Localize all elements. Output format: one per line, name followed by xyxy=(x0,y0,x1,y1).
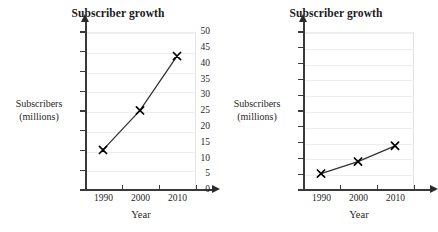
y-tick-mark xyxy=(298,47,304,48)
chart-title-right: Subscriber growth xyxy=(246,7,426,19)
gridline xyxy=(304,96,414,97)
x-tick-label: 2010 xyxy=(158,193,198,203)
x-tick-label: 1990 xyxy=(302,193,342,203)
x-axis-label-right: Year xyxy=(304,209,414,220)
y-axis-label-line1: Subscribers xyxy=(218,97,296,110)
y-tick-mark xyxy=(80,91,86,92)
chart-panel-right: Subscriber growth 0 5 10 xyxy=(218,0,436,232)
y-tick-mark xyxy=(80,71,86,72)
gridline xyxy=(304,80,414,81)
x-tick-mark xyxy=(340,185,341,191)
y-tick-mark xyxy=(80,170,86,171)
gridline xyxy=(304,144,414,145)
y-tick-mark xyxy=(80,150,86,151)
y-tick-label: 35 xyxy=(170,74,210,84)
x-tick-label: 2000 xyxy=(121,193,161,203)
y-tick-label: 20 xyxy=(170,121,210,131)
y-tick-mark xyxy=(298,174,304,175)
y-tick-mark xyxy=(298,142,304,143)
y-axis-arrow-icon xyxy=(81,14,89,22)
y-axis-line xyxy=(85,20,87,191)
y-axis-label-line2: (millions) xyxy=(0,110,78,123)
y-tick-label: 5 xyxy=(170,168,210,178)
gridline xyxy=(304,49,414,50)
gridline xyxy=(304,159,414,160)
y-tick-mark xyxy=(298,126,304,127)
x-tick-mark xyxy=(377,185,378,191)
x-tick-mark xyxy=(159,185,160,191)
plot-area-right xyxy=(304,32,414,190)
y-tick-label: 15 xyxy=(170,137,210,147)
x-axis-arrow-icon xyxy=(430,185,438,193)
gridline xyxy=(304,112,414,113)
y-tick-label: 40 xyxy=(170,58,210,68)
y-tick-mark xyxy=(80,31,86,32)
gridline xyxy=(86,132,196,133)
gridline xyxy=(304,33,414,34)
y-tick-label: 50 xyxy=(170,26,210,36)
y-tick-mark xyxy=(298,110,304,111)
gridline xyxy=(86,53,196,54)
chart-title-left: Subscriber growth xyxy=(28,7,208,19)
y-axis-arrow-icon xyxy=(299,14,307,22)
y-tick-label: 0 xyxy=(170,184,210,194)
x-axis-label-left: Year xyxy=(86,209,196,220)
y-tick-mark xyxy=(80,51,86,52)
y-tick-mark xyxy=(298,158,304,159)
y-tick-mark xyxy=(298,31,304,32)
y-tick-mark xyxy=(80,130,86,131)
y-tick-mark xyxy=(298,79,304,80)
y-axis-line xyxy=(303,20,305,191)
x-tick-mark xyxy=(122,185,123,191)
y-tick-label: 45 xyxy=(170,42,210,52)
y-axis-label-line1: Subscribers xyxy=(0,97,78,110)
y-tick-label: 30 xyxy=(170,89,210,99)
y-tick-mark xyxy=(298,95,304,96)
x-tick-mark xyxy=(303,185,304,191)
x-tick-label: 1990 xyxy=(84,193,124,203)
y-axis-label-right: Subscribers (millions) xyxy=(218,97,296,123)
y-axis-label-line2: (millions) xyxy=(218,110,296,123)
y-tick-label: 25 xyxy=(170,105,210,115)
x-tick-mark xyxy=(85,185,86,191)
y-tick-label: 10 xyxy=(170,153,210,163)
y-tick-mark xyxy=(80,110,86,111)
x-tick-mark xyxy=(414,185,415,191)
gridline xyxy=(304,128,414,129)
y-tick-mark xyxy=(298,63,304,64)
x-tick-label: 2010 xyxy=(376,193,416,203)
gridline xyxy=(304,175,414,176)
x-tick-label: 2000 xyxy=(339,193,379,203)
gridline xyxy=(304,65,414,66)
y-axis-label-left: Subscribers (millions) xyxy=(0,97,78,123)
